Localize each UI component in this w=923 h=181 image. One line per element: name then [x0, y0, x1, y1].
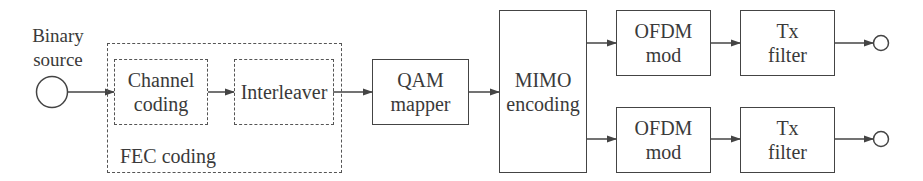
- ofdm-mod-1-line2: mod: [646, 43, 682, 67]
- binary-source-label-line2: source: [8, 48, 108, 72]
- tx-filter-2-line1: Tx: [776, 116, 798, 140]
- qam-mapper-line2: mapper: [391, 92, 451, 116]
- mimo-encoding-line2: encoding: [506, 92, 579, 116]
- output-terminal-1-icon: [874, 36, 889, 51]
- binary-source-label-line1: Binary: [8, 24, 108, 48]
- mimo-encoding-line1: MIMO: [515, 68, 572, 92]
- channel-coding-block: Channel coding: [114, 59, 208, 125]
- channel-coding-line2: coding: [134, 92, 188, 116]
- qam-mapper-line1: QAM: [397, 68, 444, 92]
- channel-coding-line1: Channel: [128, 68, 195, 92]
- output-terminal-2-icon: [874, 132, 889, 147]
- interleaver-block: Interleaver: [234, 59, 334, 125]
- tx-filter-2-line2: filter: [768, 140, 807, 164]
- qam-mapper-block: QAM mapper: [372, 59, 469, 125]
- binary-source-label: Binary source: [8, 24, 108, 72]
- tx-filter-1-line2: filter: [768, 43, 807, 67]
- ofdm-mod-block-1: OFDM mod: [616, 10, 711, 76]
- interleaver-label: Interleaver: [241, 80, 328, 104]
- binary-source-circle-icon: [37, 77, 68, 108]
- transmitter-block-diagram: Binary source FEC coding Channel coding …: [0, 0, 923, 181]
- tx-filter-block-1: Tx filter: [740, 10, 835, 76]
- ofdm-mod-1-line1: OFDM: [635, 19, 693, 43]
- fec-coding-label: FEC coding: [120, 144, 216, 168]
- ofdm-mod-block-2: OFDM mod: [616, 107, 711, 173]
- tx-filter-1-line1: Tx: [776, 19, 798, 43]
- ofdm-mod-2-line1: OFDM: [635, 116, 693, 140]
- ofdm-mod-2-line2: mod: [646, 140, 682, 164]
- tx-filter-block-2: Tx filter: [740, 107, 835, 173]
- mimo-encoding-block: MIMO encoding: [499, 10, 587, 173]
